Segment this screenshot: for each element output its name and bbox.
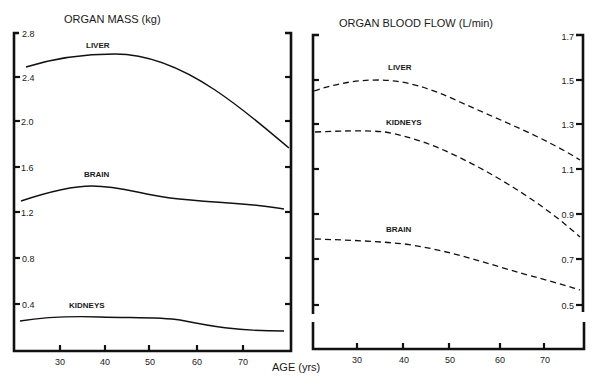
y-tick-label: 0.9 xyxy=(561,210,574,220)
liver-flow-line xyxy=(314,80,580,160)
x-axis-label: AGE (yrs) xyxy=(272,361,320,373)
y-tick-label: 0.5 xyxy=(561,301,574,311)
kidneys-mass-label: KIDNEYS xyxy=(69,301,105,310)
blood-flow-x-tick-labels: 30 40 50 60 70 xyxy=(352,355,550,365)
y-tick-label: 1.2 xyxy=(21,208,34,218)
liver-flow-label: LIVER xyxy=(388,63,412,72)
x-tick-label: 40 xyxy=(100,357,110,367)
brain-flow-label: BRAIN xyxy=(386,225,412,234)
y-tick-label: 1.1 xyxy=(561,165,574,175)
x-tick-label: 30 xyxy=(352,355,362,365)
y-tick-label: 2.8 xyxy=(22,29,35,39)
y-tick-label: 1.3 xyxy=(561,120,574,130)
y-tick-label: 0.8 xyxy=(22,254,35,264)
y-tick-label: 2.0 xyxy=(21,117,34,127)
organ-mass-title: ORGAN MASS (kg) xyxy=(64,13,161,25)
liver-mass-label: LIVER xyxy=(86,41,110,50)
x-tick-label: 40 xyxy=(399,355,409,365)
blood-flow-lines xyxy=(314,80,580,290)
x-tick-label: 50 xyxy=(445,355,455,365)
y-tick-label: 0.4 xyxy=(22,300,35,310)
y-tick-label: 1.5 xyxy=(561,76,574,86)
kidneys-flow-label: KIDNEYS xyxy=(386,118,422,127)
brain-flow-line xyxy=(315,239,580,290)
brain-mass-line xyxy=(21,186,284,209)
y-tick-label: 0.7 xyxy=(561,255,574,265)
blood-flow-y-tick-labels: 1.7 1.5 1.3 1.1 0.9 0.7 0.5 xyxy=(561,32,574,311)
x-tick-label: 30 xyxy=(55,357,65,367)
kidneys-flow-line xyxy=(315,131,580,237)
x-tick-label: 50 xyxy=(145,357,155,367)
organ-mass-axes xyxy=(14,33,291,351)
kidneys-mass-line xyxy=(20,317,284,331)
blood-flow-right-axis-upper xyxy=(576,35,583,312)
blood-flow-left-axis-upper xyxy=(313,35,319,314)
y-tick-label: 2.4 xyxy=(22,73,35,83)
figure: ORGAN MASS (kg) 2.8 2.4 2.0 1.6 1.2 0.8 xyxy=(0,0,604,385)
y-tick-label: 1.7 xyxy=(561,32,574,42)
organ-mass-chart: ORGAN MASS (kg) 2.8 2.4 2.0 1.6 1.2 0.8 xyxy=(14,13,291,367)
x-tick-label: 70 xyxy=(238,357,248,367)
y-tick-label: 1.6 xyxy=(21,163,34,173)
x-tick-label: 60 xyxy=(192,357,202,367)
liver-mass-line xyxy=(26,54,289,148)
x-tick-label: 70 xyxy=(540,355,550,365)
x-tick-label: 60 xyxy=(495,355,505,365)
brain-mass-label: BRAIN xyxy=(84,170,110,179)
organ-mass-y-tick-labels: 2.8 2.4 2.0 1.6 1.2 0.8 0.4 xyxy=(21,29,35,310)
organ-mass-x-tick-labels: 30 40 50 60 70 xyxy=(55,357,248,367)
chart-canvas: ORGAN MASS (kg) 2.8 2.4 2.0 1.6 1.2 0.8 xyxy=(0,0,604,385)
organ-blood-flow-title: ORGAN BLOOD FLOW (L/min) xyxy=(339,17,493,29)
organ-blood-flow-chart: ORGAN BLOOD FLOW (L/min) 1.7 1.5 1.3 xyxy=(313,17,584,365)
